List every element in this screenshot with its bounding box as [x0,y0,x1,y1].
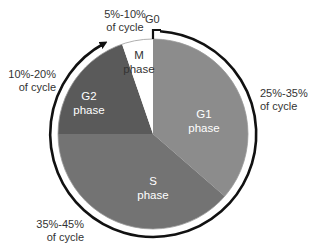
s-name: S [133,174,173,188]
g2-range: 10%-20% [2,68,56,81]
g1-name: G1 [184,107,224,121]
g1-word: phase [184,121,224,135]
g2-word: phase [69,103,109,117]
g1-range: 25%-35% [260,87,308,100]
g2-duration-label: 10%-20% of cycle [2,68,56,94]
m-phase-label: M phase [119,48,159,76]
s-phase-label: S phase [133,174,173,202]
g2-name: G2 [69,89,109,103]
g2-suffix: of cycle [2,81,56,94]
cell-cycle-pie [0,0,316,247]
g1-phase-label: G1 phase [184,107,224,135]
m-name: M [119,48,159,62]
s-suffix: of cycle [30,231,84,244]
m-word: phase [119,62,159,76]
g0-label: G0 [145,13,160,26]
g1-duration-label: 25%-35% of cycle [260,87,308,113]
g1-suffix: of cycle [260,100,308,113]
g0-marker-line [153,30,161,39]
cell-cycle-diagram: G1 phase S phase G2 phase M phase 5%-10%… [0,0,316,247]
g2-phase-label: G2 phase [69,89,109,117]
s-range: 35%-45% [30,218,84,231]
s-word: phase [133,188,173,202]
s-duration-label: 35%-45% of cycle [30,218,84,244]
